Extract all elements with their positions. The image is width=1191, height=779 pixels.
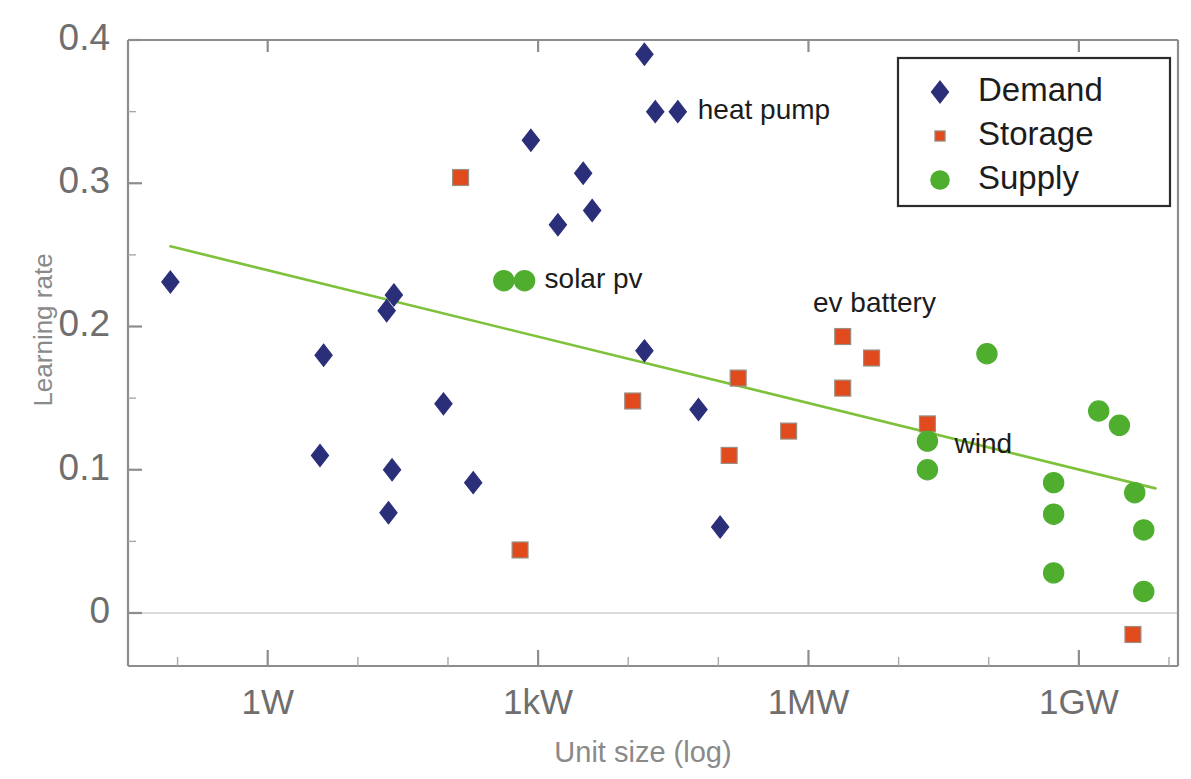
data-point-supply (917, 431, 937, 451)
data-point-supply (1134, 520, 1154, 540)
data-point-storage (835, 329, 851, 345)
data-point-storage (1125, 627, 1141, 643)
data-point-supply (1109, 415, 1129, 435)
annotation-label: wind (953, 428, 1012, 459)
x-axis-title: Unit size (log) (554, 736, 731, 768)
y-tick-label: 0.4 (59, 17, 110, 58)
x-tick-label: 1MW (768, 682, 850, 721)
y-tick-label: 0 (89, 590, 110, 631)
data-point-demand (636, 43, 653, 65)
data-point-storage (512, 542, 528, 558)
y-tick-label: 0.3 (59, 160, 110, 201)
x-tick-label: 1W (241, 682, 294, 721)
axis-labels: 1W1kW1MW1GWUnit size (log)Learning rate (28, 253, 1119, 768)
data-point-storage (625, 393, 641, 409)
data-point-storage (864, 350, 880, 366)
annotation-label: heat pump (698, 94, 830, 125)
data-point-supply (1044, 563, 1064, 583)
annotation-marker (514, 271, 534, 291)
data-point-demand (162, 271, 179, 293)
data-point-supply (917, 460, 937, 480)
data-point-supply (1134, 581, 1154, 601)
data-point-demand (575, 162, 592, 184)
data-point-demand (315, 344, 332, 366)
data-point-supply (1089, 401, 1109, 421)
chart-figure: 00.10.20.30.4 heat pumpsolar pvev batter… (0, 0, 1191, 779)
data-point-demand (549, 214, 566, 236)
data-point-storage (781, 423, 797, 439)
annotation-marker (669, 101, 686, 123)
annotation-label: ev battery (813, 287, 936, 318)
data-point-demand (311, 444, 328, 466)
data-point-storage (453, 170, 469, 186)
square-legend-icon (935, 131, 945, 141)
data-point-demand (522, 129, 539, 151)
data-point-supply (494, 271, 514, 291)
data-point-demand (690, 399, 707, 421)
legend-item-label: Storage (978, 115, 1094, 152)
data-point-demand (647, 101, 664, 123)
data-point-demand (380, 502, 397, 524)
scatter-plot: 00.10.20.30.4 heat pumpsolar pvev batter… (0, 0, 1191, 779)
data-point-demand (465, 472, 482, 494)
data-point-supply (1044, 473, 1064, 493)
data-point-demand (712, 516, 729, 538)
data-point-demand (435, 393, 452, 415)
legend-item-label: Demand (978, 71, 1103, 108)
y-tick-label: 0.2 (59, 303, 110, 344)
x-tick-label: 1kW (503, 682, 573, 721)
data-point-supply (1044, 504, 1064, 524)
data-point-supply (1125, 483, 1145, 503)
circle-legend-icon (931, 171, 949, 189)
legend[interactable]: DemandStorageSupply (898, 58, 1170, 206)
data-point-demand (584, 199, 601, 221)
data-point-storage (835, 380, 851, 396)
annotation-label: solar pv (545, 263, 643, 294)
y-axis-title: Learning rate (28, 253, 58, 406)
data-point-storage (721, 447, 737, 463)
data-point-storage (919, 416, 935, 432)
data-point-storage (730, 370, 746, 386)
legend-item-label: Supply (978, 159, 1079, 196)
data-point-demand (383, 459, 400, 481)
x-tick-label: 1GW (1039, 682, 1119, 721)
data-point-supply (977, 344, 997, 364)
data-point-demand (636, 340, 653, 362)
y-tick-label: 0.1 (59, 447, 110, 488)
